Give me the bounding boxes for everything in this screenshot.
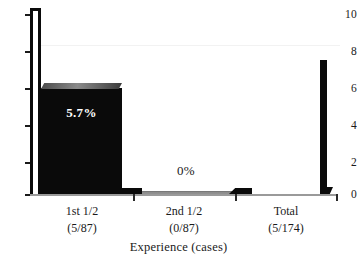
y-axis-wall-face: [30, 8, 41, 195]
y-tick-mark-2: [25, 162, 30, 164]
x-tick-mark-1: [133, 194, 135, 201]
x-category-1st-half: 1st 1/2 (5/87): [31, 203, 133, 236]
x-category-1st-half-sublabel: (5/87): [31, 220, 133, 237]
x-category-2nd-half-sublabel: (0/87): [133, 220, 235, 237]
y-tick-label-10: 10: [331, 9, 357, 21]
bar-2nd-half-value: 0%: [137, 164, 235, 177]
x-category-1st-half-label: 1st 1/2: [66, 204, 98, 218]
bar-1st-half[interactable]: 5.7%: [41, 88, 122, 195]
bar-total-front: [320, 60, 327, 191]
bar-1st-half-value: 5.7%: [41, 106, 122, 119]
bar-total[interactable]: [320, 60, 332, 195]
x-category-total-label: Total: [274, 204, 299, 218]
y-axis: [30, 8, 41, 195]
x-category-total-sublabel: (5/174): [235, 220, 337, 237]
y-tick-mark-4: [25, 125, 30, 127]
x-category-2nd-half-label: 2nd 1/2: [166, 204, 202, 218]
y-tick-mark-8: [25, 51, 30, 53]
gridline-8: [30, 45, 340, 46]
x-tick-mark-2: [235, 194, 237, 201]
x-category-2nd-half: 2nd 1/2 (0/87): [133, 203, 235, 236]
y-tick-label-4: 4: [331, 120, 357, 132]
x-axis-line: [30, 194, 336, 196]
bar-1st-half-top: [41, 83, 122, 89]
x-tick-mark-3: [336, 194, 338, 201]
x-category-total: Total (5/174): [235, 203, 337, 236]
y-tick-label-8: 8: [331, 46, 357, 58]
y-tick-label-2: 2: [331, 157, 357, 169]
y-axis-wall-top: [30, 8, 41, 11]
y-tick-label-6: 6: [331, 83, 357, 95]
x-axis-title: Experience (cases): [0, 240, 357, 255]
y-tick-mark-6: [25, 88, 30, 90]
bar-chart: 10 8 6 4 2 0 5.7% 0% 1st 1/2 (5/87) 2nd …: [0, 0, 357, 264]
y-tick-mark-10: [25, 14, 30, 16]
